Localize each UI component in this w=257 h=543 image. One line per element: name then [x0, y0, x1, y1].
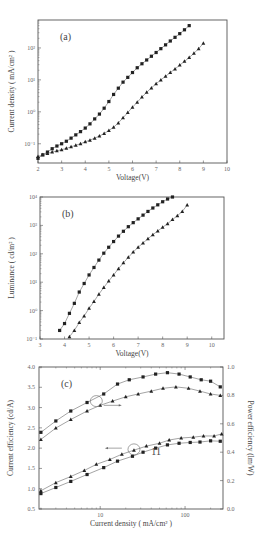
triangle-marker [156, 229, 160, 233]
y-tick-label: 2.0 [28, 445, 36, 451]
x-tick-label: 6 [112, 342, 115, 348]
square-marker [84, 126, 87, 129]
y-right-tick-label: 0.4 [227, 449, 235, 455]
y-tick-label: 3.0 [28, 405, 36, 411]
triangle-marker [72, 328, 76, 332]
square-marker [117, 87, 120, 90]
x-axis-label: Current density ( mA/cm² ) [90, 519, 172, 528]
square-marker [85, 473, 88, 476]
x-tick-label: 6 [131, 166, 134, 172]
triangle-marker [173, 67, 177, 71]
triangle-marker [102, 131, 106, 135]
square-marker [102, 392, 105, 395]
square-marker [39, 492, 42, 495]
square-marker [117, 234, 120, 237]
x-tick-label: 100 [181, 512, 190, 518]
series-power-efficiency-triangle [39, 385, 222, 441]
square-marker [166, 443, 169, 446]
chart-panel-a: 234567891010⁻¹10⁰10¹10²(a)Voltage(V)Curr… [7, 20, 230, 182]
y-tick-label: 10⁻¹ [26, 336, 37, 342]
square-marker [79, 130, 82, 133]
triangle-marker [183, 59, 187, 63]
square-marker [131, 71, 134, 74]
square-marker [177, 373, 180, 376]
square-marker [140, 62, 143, 65]
square-marker [166, 371, 169, 374]
square-marker [87, 273, 90, 276]
y-tick-label: 10² [27, 45, 35, 51]
square-marker [83, 282, 86, 285]
square-marker [154, 373, 157, 376]
triangle-marker [171, 218, 175, 222]
x-tick-label: 7 [137, 342, 140, 348]
triangle-marker [82, 468, 86, 472]
triangle-marker [185, 203, 189, 207]
triangle-marker [159, 78, 163, 82]
square-marker [155, 51, 158, 54]
y-right-tick-label: 0.6 [227, 421, 235, 427]
x-tick-label: 8 [161, 342, 164, 348]
square-marker [126, 76, 129, 79]
annotation-circle [90, 396, 102, 407]
x-tick-label: 4 [84, 166, 87, 172]
square-marker [219, 440, 222, 443]
x-axis-label: Voltage(V) [116, 173, 150, 182]
x-tick-label: 3 [60, 166, 63, 172]
triangle-marker [39, 437, 43, 441]
y-right-axis-label: Power efficiency (lm/W) [246, 401, 255, 476]
y-tick-label: 10¹ [27, 77, 35, 83]
square-marker [103, 107, 106, 110]
y-tick-label: 4.0 [28, 364, 36, 370]
square-marker [69, 480, 72, 483]
square-marker [107, 246, 110, 249]
square-marker [63, 322, 66, 325]
square-marker [58, 329, 61, 332]
triangle-marker [146, 237, 150, 241]
series-device-square [58, 195, 174, 332]
y-tick-label: 3.5 [28, 384, 36, 390]
square-marker [122, 230, 125, 233]
square-marker [189, 441, 192, 444]
square-marker [54, 419, 57, 422]
square-marker [209, 380, 212, 383]
x-tick-label: 8 [178, 166, 181, 172]
x-tick-label: 5 [107, 166, 110, 172]
y-tick-label: 10⁻¹ [24, 141, 35, 147]
square-marker [54, 486, 57, 489]
square-marker [97, 259, 100, 262]
y-tick-label: 0.5 [28, 506, 36, 512]
square-marker [69, 409, 72, 412]
y-tick-label: 10⁴ [29, 194, 37, 200]
square-marker [177, 442, 180, 445]
triangle-marker [69, 418, 73, 422]
panel-label: (a) [60, 31, 71, 43]
square-marker [121, 81, 124, 84]
square-marker [219, 385, 222, 388]
y-tick-label: 10³ [29, 222, 37, 228]
panel-label: (c) [61, 378, 72, 390]
y-tick-label: 1.0 [28, 486, 36, 492]
square-marker [74, 133, 77, 136]
triangle-marker [151, 233, 155, 237]
triangle-marker [168, 71, 172, 75]
x-tick-label: 2 [37, 166, 40, 172]
triangle-marker [82, 314, 86, 318]
series-device-square [36, 24, 190, 160]
y-axis-label: Current density ( mA/cm² ) [7, 50, 16, 132]
triangle-marker [39, 489, 43, 493]
square-marker [98, 112, 101, 115]
x-tick-label: 10 [97, 512, 103, 518]
y-right-tick-label: 0.0 [227, 506, 235, 512]
square-marker [73, 302, 76, 305]
x-tick-label: 5 [88, 342, 91, 348]
square-marker [166, 197, 169, 200]
figure: 234567891010⁻¹10⁰10¹10²(a)Voltage(V)Curr… [0, 0, 257, 543]
y-tick-label: 2.5 [28, 425, 36, 431]
square-marker [92, 266, 95, 269]
y-axis-label: Current efficiency (cd/A) [6, 399, 15, 476]
triangle-marker [54, 426, 58, 430]
square-marker [102, 466, 105, 469]
square-marker [173, 36, 176, 39]
square-marker [188, 24, 191, 27]
annotation-label: 11 [151, 446, 161, 457]
